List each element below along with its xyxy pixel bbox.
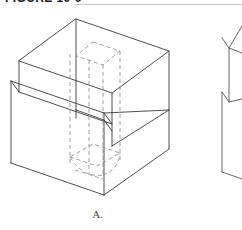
upper-block-top-face — [19, 19, 169, 93]
figure-b-upper-block — [222, 26, 242, 102]
technical-drawing-canvas — [0, 10, 242, 210]
lower-block-right-face — [104, 110, 169, 195]
figure-b-lower-block — [222, 92, 242, 179]
figure-a-pictorial — [11, 19, 169, 195]
upper-block-right-face — [112, 51, 169, 146]
hole-top-opening — [76, 42, 120, 65]
caption-rule — [74, 4, 242, 5]
figure-page: FIGURE 10-9 — [0, 0, 242, 230]
figure-a-label: A. — [0, 208, 196, 220]
lower-block-left-face — [11, 81, 104, 195]
figure-b-pictorial — [222, 26, 242, 179]
figure-caption-text: FIGURE 10-9 — [5, 0, 82, 5]
hole-end-arcs — [70, 153, 120, 175]
hole-bottom-opening — [70, 144, 120, 179]
upper-block-left-face — [19, 19, 112, 124]
